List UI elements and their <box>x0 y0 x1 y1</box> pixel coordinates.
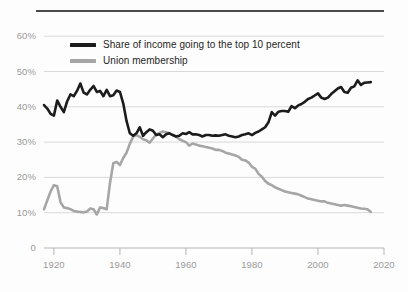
series-line <box>44 80 371 137</box>
x-tick-label: 1960 <box>166 259 206 270</box>
legend-label-union: Union membership <box>103 55 188 66</box>
y-tick-label: 50% <box>2 66 36 77</box>
y-tick-label: 40% <box>2 101 36 112</box>
x-tick-label: 2000 <box>298 259 338 270</box>
y-tick-label: 0 <box>2 242 36 253</box>
x-tick-label: 1980 <box>232 259 272 270</box>
y-tick-label: 60% <box>2 30 36 41</box>
x-tick-label: 1940 <box>100 259 140 270</box>
black-line-swatch-icon <box>70 43 96 47</box>
data-series <box>44 80 371 214</box>
legend-label-income: Share of income going to the top 10 perc… <box>103 39 300 50</box>
y-tick-label: 30% <box>2 136 36 147</box>
x-tick-label: 2020 <box>364 259 404 270</box>
legend-item-income: Share of income going to the top 10 perc… <box>70 38 300 51</box>
y-tick-label: 20% <box>2 171 36 182</box>
y-tick-label: 10% <box>2 207 36 218</box>
chart-legend: Share of income going to the top 10 perc… <box>70 38 300 70</box>
x-tick-label: 1920 <box>34 259 74 270</box>
series-line <box>44 132 371 215</box>
x-axis <box>54 248 384 255</box>
legend-item-union: Union membership <box>70 54 300 67</box>
chart-container: 010%20%30%40%50%60% 19201940196019802000… <box>0 0 408 292</box>
gray-line-swatch-icon <box>70 59 96 63</box>
